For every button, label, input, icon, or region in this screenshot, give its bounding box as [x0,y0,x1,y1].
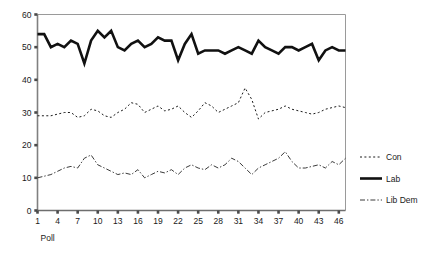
y-tick-label-30: 30 [22,108,32,118]
y-tick-label-0: 0 [27,206,32,216]
x-tick-label-13: 13 [113,216,123,226]
series-line-con [38,88,346,119]
x-tick [257,211,260,214]
series-line-lab [38,31,346,64]
x-tick [297,211,300,214]
x-tick [338,211,341,214]
x-tick [197,211,200,214]
poll-line-chart: 0102030405060147101316192225283134374043… [0,0,424,268]
x-tick [157,211,160,214]
y-tick [34,46,37,49]
y-tick [34,144,37,147]
x-tick [56,211,59,214]
x-tick-label-28: 28 [214,216,224,226]
x-tick [76,211,79,214]
chart-container: 0102030405060147101316192225283134374043… [0,0,424,268]
legend-label-lib-dem: Lib Dem [386,195,418,205]
x-tick-label-40: 40 [294,216,304,226]
y-tick [34,79,37,82]
y-tick [34,13,37,16]
y-tick-label-40: 40 [22,75,32,85]
y-tick [34,177,37,180]
x-tick-label-10: 10 [93,216,103,226]
legend-label-lab: Lab [386,174,400,184]
x-tick [96,211,99,214]
x-tick [117,211,120,214]
y-tick-label-50: 50 [22,42,32,52]
x-tick-label-25: 25 [193,216,203,226]
y-tick-label-10: 10 [22,173,32,183]
x-tick-label-7: 7 [75,216,80,226]
x-tick-label-37: 37 [274,216,284,226]
x-tick [177,211,180,214]
x-tick [36,211,39,214]
y-tick-label-60: 60 [22,10,32,20]
x-tick-label-4: 4 [55,216,60,226]
x-tick-label-22: 22 [173,216,183,226]
x-tick-label-31: 31 [234,216,244,226]
x-tick [217,211,220,214]
y-tick [34,111,37,114]
x-tick-label-16: 16 [133,216,143,226]
x-tick-label-1: 1 [35,216,40,226]
legend-label-con: Con [386,152,402,162]
x-tick-label-34: 34 [254,216,264,226]
x-axis-title: Poll [41,233,55,243]
x-tick-label-43: 43 [314,216,324,226]
x-tick-label-19: 19 [153,216,163,226]
x-tick [317,211,320,214]
x-tick [277,211,280,214]
y-tick-label-20: 20 [22,140,32,150]
x-tick [237,211,240,214]
series-line-lib-dem [38,152,346,178]
x-tick [137,211,140,214]
x-tick-label-46: 46 [334,216,344,226]
